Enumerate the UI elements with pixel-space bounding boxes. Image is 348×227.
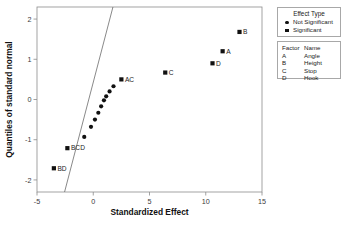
data-point-label: B xyxy=(243,28,248,35)
plot-frame xyxy=(37,7,262,192)
y-tick-label: 1 xyxy=(28,55,32,64)
factor-code: B xyxy=(282,59,304,66)
not-significant-points xyxy=(82,84,115,139)
y-tick-label: 2 xyxy=(28,15,32,24)
y-tick-label: 0 xyxy=(28,95,32,104)
y-axis-ticks: -2-1012 xyxy=(25,15,37,185)
factor-name: Angle xyxy=(304,52,340,59)
data-point xyxy=(119,77,123,81)
plot-area: -5051015 -2-1012 BDBCDACCDAB Standardize… xyxy=(0,0,272,227)
legend-item-significant: Significant xyxy=(278,26,340,34)
factor-name-row: BHeight xyxy=(278,59,340,66)
data-point xyxy=(52,166,56,170)
x-tick-label: 0 xyxy=(91,197,95,206)
data-point-label: A xyxy=(226,48,231,55)
data-point-label: D xyxy=(216,60,221,67)
x-tick-label: 15 xyxy=(258,197,266,206)
data-point xyxy=(104,94,108,98)
legend-item-significant-label: Significant xyxy=(293,26,322,34)
data-point xyxy=(93,118,97,122)
x-tick-label: 10 xyxy=(202,197,210,206)
point-labels: BDBCDACCDAB xyxy=(57,28,248,171)
effect-type-legend-title: Effect Type xyxy=(278,10,340,18)
factor-name-rows: AAngleBHeightCStopDHook xyxy=(278,52,340,82)
x-axis-ticks: -5051015 xyxy=(34,192,266,206)
factor-name-row: CStop xyxy=(278,67,340,74)
factor-code: D xyxy=(282,74,304,81)
legend-item-not-significant: Not Significant xyxy=(278,18,340,26)
factor-name: Stop xyxy=(304,67,340,74)
data-point xyxy=(221,49,225,53)
y-tick-label: -1 xyxy=(25,135,31,144)
data-point xyxy=(82,135,86,139)
factor-name-header: Factor Name xyxy=(278,44,340,51)
data-point xyxy=(111,84,115,88)
circle-marker-icon xyxy=(283,18,291,26)
factor-name: Height xyxy=(304,59,340,66)
data-point xyxy=(237,30,241,34)
y-tick-label: -2 xyxy=(25,176,31,185)
data-point-label: BD xyxy=(57,165,66,172)
factor-code: C xyxy=(282,67,304,74)
factor-name: Hook xyxy=(304,74,340,81)
data-point-label: C xyxy=(169,69,174,76)
factor-name-row: DHook xyxy=(278,74,340,81)
x-tick-label: -5 xyxy=(34,197,40,206)
factor-name-row: AAngle xyxy=(278,52,340,59)
x-axis-title: Standardized Effect xyxy=(110,207,188,217)
data-point xyxy=(163,70,167,74)
data-point xyxy=(65,146,69,150)
scatter-plot-svg: -5051015 -2-1012 BDBCDACCDAB Standardize… xyxy=(0,0,272,227)
factor-name-legend: Factor Name AAngleBHeightCStopDHook xyxy=(277,41,341,79)
data-point xyxy=(96,111,100,115)
data-point xyxy=(99,104,103,108)
factor-column-header: Factor xyxy=(282,44,304,51)
effect-type-legend: Effect Type Not Significant Significant xyxy=(277,7,341,37)
x-tick-label: 5 xyxy=(148,197,152,206)
y-axis-title: Quantiles of standard normal xyxy=(4,41,14,157)
data-point xyxy=(210,61,214,65)
normal-probability-plot-figure: -5051015 -2-1012 BDBCDACCDAB Standardize… xyxy=(0,0,348,227)
legend-item-not-significant-label: Not Significant xyxy=(293,18,333,26)
data-point xyxy=(107,89,111,93)
data-point-label: BCD xyxy=(71,144,85,151)
data-point-label: AC xyxy=(125,76,134,83)
name-column-header: Name xyxy=(304,44,340,51)
factor-code: A xyxy=(282,52,304,59)
data-point xyxy=(89,125,93,129)
square-marker-icon xyxy=(283,26,291,34)
data-point xyxy=(102,98,106,102)
